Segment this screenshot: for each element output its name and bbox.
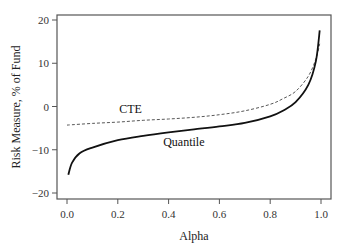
x-tick-label: 0.2 [111,208,125,220]
y-tick-label: −20 [32,187,50,199]
y-tick-label: −10 [32,144,50,156]
y-tick-label: 20 [38,14,50,26]
series-line-cte [67,44,320,125]
x-tick-label: 0.4 [162,208,176,220]
series-line-quantile [68,30,319,174]
x-tick-label: 0.0 [60,208,74,220]
annotations: CTEQuantile [119,102,204,149]
y-tick-label: 10 [38,57,50,69]
series-label-cte: CTE [119,102,142,116]
chart: −20−1001020 0.00.20.40.60.81.0 CTEQuanti… [0,0,342,246]
series-label-quantile: Quantile [163,135,204,149]
x-tick-label: 1.0 [314,208,328,220]
series-group [67,30,320,174]
x-axis-label: Alpha [179,229,209,243]
y-tick-label: 0 [44,101,50,113]
x-axis: 0.00.20.40.60.81.0 [60,199,328,220]
x-tick-label: 0.6 [213,208,227,220]
y-axis-label: Risk Measure, % of Fund [9,46,23,169]
y-axis: −20−1001020 [32,14,57,199]
x-tick-label: 0.8 [263,208,277,220]
